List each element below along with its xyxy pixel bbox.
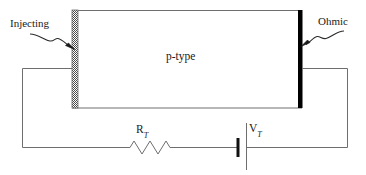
resistor-symbol-text: R <box>136 123 144 135</box>
ohmic-label: Ohmic <box>318 16 348 27</box>
wire-left <box>23 69 74 148</box>
injecting-arrow-line <box>30 34 71 47</box>
resistor-label: RT <box>136 124 148 138</box>
diagram-canvas <box>0 0 366 175</box>
ohmic-contact <box>298 10 303 108</box>
injecting-contact <box>72 10 78 108</box>
p-type-label: p-type <box>166 51 195 63</box>
semiconductor-circuit-diagram: Injecting Ohmic p-type RT VT <box>0 0 366 175</box>
injecting-label: Injecting <box>10 18 49 29</box>
wire-right <box>302 69 348 148</box>
resistor-subscript-text: T <box>144 131 148 140</box>
p-type-suffix: -type <box>172 50 196 62</box>
voltage-label: VT <box>249 123 262 137</box>
battery-negative-plate <box>237 138 240 157</box>
resistor-symbol <box>130 141 170 154</box>
ohmic-arrow-line <box>306 31 344 45</box>
voltage-subscript-text: T <box>257 130 261 139</box>
